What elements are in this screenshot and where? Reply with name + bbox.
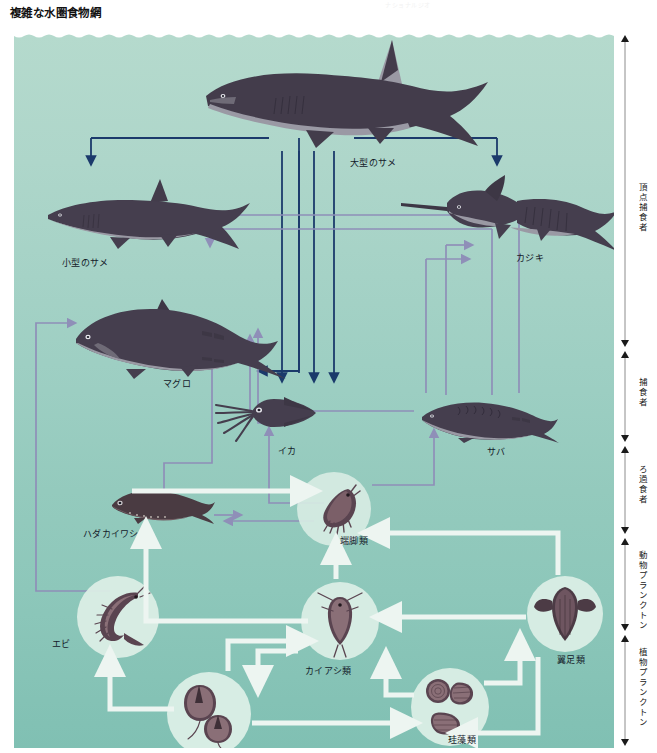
organism-label-shrimp: エビ <box>52 637 71 650</box>
ocean-panel: 大型のサメ 小型のサメ カジキ マグロ イカ サバ ハダカイワシ 端脚類 エビ … <box>14 33 614 748</box>
plankton-arrow-layer <box>14 33 614 748</box>
trophic-zone-apex-predator: 頂点捕食者 <box>636 183 648 233</box>
organism-label-tuna: マグロ <box>163 377 191 390</box>
trophic-zone-filter-feeder: ろ過食者 <box>636 465 648 505</box>
plankton-arrow-group <box>110 491 558 733</box>
organism-label-mackerel: サバ <box>487 445 506 458</box>
food-web-infographic: ナショナルジオ 複雑な水圏食物網 <box>0 0 657 753</box>
organism-label-dinoflagellate: 渦鞭毛藻類 <box>172 747 219 748</box>
organism-label-lanternfish: ハダカイワシ <box>83 527 139 540</box>
organism-label-copepod: カイアシ類 <box>305 664 352 677</box>
organism-label-billfish: カジキ <box>516 251 544 264</box>
organism-label-small-shark: 小型のサメ <box>62 256 109 269</box>
trophic-zone-zooplankton: 動物プランクトン <box>636 551 648 631</box>
trophic-zone-predator: 捕食者 <box>636 378 648 408</box>
organism-label-pteropod: 翼足類 <box>557 653 585 666</box>
organism-label-amphipod: 端脚類 <box>340 534 368 547</box>
organism-label-large-shark: 大型のサメ <box>350 156 397 169</box>
trophic-level-axis: 頂点捕食者 捕食者 ろ過食者 動物プランクトン 植物プランクトン <box>614 33 657 748</box>
organism-label-diatom: 珪藻類 <box>448 733 476 746</box>
watermark-text: ナショナルジオ <box>385 0 431 9</box>
page-title: 複雑な水圏食物網 <box>10 4 101 20</box>
organism-label-squid: イカ <box>278 444 297 457</box>
trophic-zone-phytoplankton: 植物プランクトン <box>636 648 648 728</box>
